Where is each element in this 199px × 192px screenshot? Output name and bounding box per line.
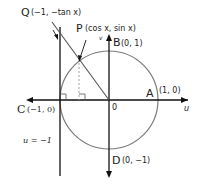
p-pointer	[80, 40, 86, 58]
right-angle-mark-c	[60, 94, 66, 100]
label-origin: 0	[112, 103, 117, 112]
unit-circle-diagram: Q (−1, −tan x) P (cos x, sin x) v B (0, …	[0, 0, 199, 192]
label-v-axis: v	[99, 34, 103, 41]
label-q-name: Q	[21, 6, 30, 19]
label-a-name: A	[146, 87, 154, 100]
label-p-coords: (cos x, sin x)	[85, 24, 136, 33]
label-q-coords: (−1, −tan x)	[31, 8, 81, 17]
label-b-coords: (0, 1)	[121, 39, 143, 48]
label-a-coords: (1, 0)	[159, 86, 181, 95]
label-p-name: P	[76, 22, 83, 35]
label-c-name: C	[17, 103, 25, 116]
label-c-coords: (−1, 0)	[27, 105, 55, 114]
label-u-axis: u	[184, 104, 189, 113]
label-d-coords: (0, −1)	[122, 156, 150, 165]
c-arrow-icon	[26, 97, 33, 103]
q-pointer-arrowhead-icon	[54, 34, 58, 40]
v-axis-arrow-icon	[106, 34, 112, 41]
d-arrow-icon	[106, 171, 112, 178]
u-axis-arrow-icon	[181, 97, 188, 103]
label-d-name: D	[112, 154, 120, 167]
label-b-name: B	[113, 36, 121, 49]
label-line-u-minus-1: u = −1	[23, 136, 52, 145]
right-angle-mark-p	[79, 94, 85, 100]
